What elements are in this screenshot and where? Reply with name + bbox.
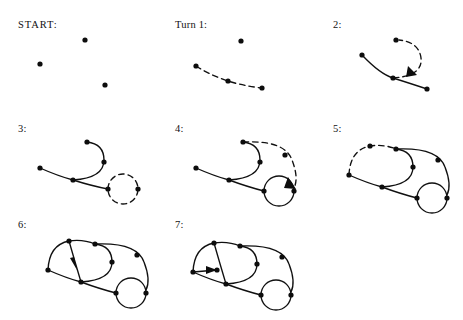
graph-node xyxy=(193,63,198,68)
graph-node xyxy=(84,139,89,144)
panel-turn1: Turn 1: xyxy=(175,19,265,91)
graph-node xyxy=(226,177,231,182)
graph-edge xyxy=(396,149,449,195)
graph-node xyxy=(190,269,195,274)
graph-node xyxy=(282,152,287,157)
graph-node xyxy=(414,195,419,200)
graph-node xyxy=(288,292,293,297)
graph-node xyxy=(45,267,50,272)
panel-turn3: 3: xyxy=(18,123,141,204)
graph-node xyxy=(82,37,87,42)
graph-edge xyxy=(240,246,293,292)
graph-node xyxy=(109,259,114,264)
graph-node xyxy=(435,157,440,162)
graph-edge xyxy=(382,149,413,187)
graph-node xyxy=(359,52,364,57)
graph-node xyxy=(105,186,110,191)
graph-node xyxy=(102,82,107,87)
graph-node xyxy=(214,267,219,272)
graph-node xyxy=(393,37,398,42)
graph-node xyxy=(240,139,245,144)
arrowhead-icon xyxy=(284,177,296,189)
graph-edge xyxy=(48,240,95,270)
graph-node xyxy=(238,38,243,43)
graph-node xyxy=(257,159,262,164)
graph-node xyxy=(225,78,230,83)
panel-label-turn2: 2: xyxy=(333,19,342,30)
graph-edge xyxy=(226,246,257,284)
panel-label-turn4: 4: xyxy=(175,123,184,134)
graph-node xyxy=(367,143,372,148)
graph-node xyxy=(393,146,398,151)
graph-node xyxy=(193,165,198,170)
graph-node xyxy=(135,186,140,191)
graph-self-loop xyxy=(116,278,146,308)
graph-node xyxy=(261,188,266,193)
graph-edge xyxy=(229,142,260,180)
graph-node xyxy=(223,281,228,286)
panel-label-turn1: Turn 1: xyxy=(175,19,207,30)
graph-node xyxy=(70,177,75,182)
graph-node xyxy=(101,159,106,164)
graph-edge xyxy=(73,142,104,180)
graph-node xyxy=(258,292,263,297)
graph-edge xyxy=(81,244,112,282)
graph-node xyxy=(259,85,264,90)
graph-node xyxy=(390,75,395,80)
graph-node xyxy=(66,238,71,243)
graph-node xyxy=(134,252,139,257)
graph-self-loop xyxy=(417,183,447,213)
graph-node xyxy=(279,254,284,259)
graph-node xyxy=(143,290,148,295)
panel-label-turn7: 7: xyxy=(175,219,184,230)
graph-node xyxy=(291,188,296,193)
graph-node xyxy=(37,61,42,66)
graph-node xyxy=(410,164,415,169)
turn-sequence-figure: START: Turn 1: 2: 3: 4: xyxy=(0,0,463,320)
panel-turn5: 5: xyxy=(333,123,450,213)
panel-label-turn5: 5: xyxy=(333,123,342,134)
graph-self-loop xyxy=(261,280,291,310)
graph-self-loop-new xyxy=(108,174,138,204)
panel-label-turn3: 3: xyxy=(18,123,27,134)
graph-edge xyxy=(214,243,226,284)
panel-turn2: 2: xyxy=(333,19,430,92)
graph-node xyxy=(379,184,384,189)
graph-node xyxy=(78,279,83,284)
graph-node xyxy=(424,86,429,91)
graph-edge-new xyxy=(196,66,262,88)
graph-node xyxy=(211,240,216,245)
graph-node xyxy=(254,261,259,266)
panel-turn7: 7: xyxy=(175,219,294,310)
panel-start: START: xyxy=(18,19,108,88)
graph-node xyxy=(92,241,97,246)
graph-edge xyxy=(95,244,148,290)
graph-node xyxy=(37,165,42,170)
panel-label-start: START: xyxy=(18,19,58,30)
panel-label-turn6: 6: xyxy=(18,219,27,230)
graph-node xyxy=(237,243,242,248)
graph-node xyxy=(113,290,118,295)
graph-edge xyxy=(362,55,427,89)
panel-turn6: 6: xyxy=(18,219,149,308)
graph-edge-new xyxy=(349,145,396,175)
graph-node xyxy=(444,195,449,200)
graph-node xyxy=(346,172,351,177)
panel-turn4: 4: xyxy=(175,123,297,206)
